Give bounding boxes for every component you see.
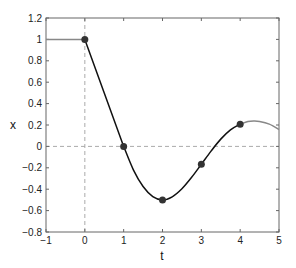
- x-tick-label: 5: [276, 235, 282, 246]
- data-point: [81, 36, 88, 43]
- x-tick-label: 0: [82, 235, 88, 246]
- y-tick-label: 1: [36, 34, 42, 45]
- x-tick-label: 3: [199, 235, 205, 246]
- x-tick-label: 1: [121, 235, 127, 246]
- chart: −1012345−0.8−0.6−0.4−0.200.20.40.60.811.…: [0, 0, 296, 268]
- x-tick-label: 2: [160, 235, 166, 246]
- x-tick-label: −1: [40, 235, 52, 246]
- y-tick-label: 0.4: [28, 98, 42, 109]
- x-axis-label: t: [160, 249, 164, 263]
- data-point: [159, 196, 166, 203]
- data-point: [237, 121, 244, 128]
- y-tick-label: 0.6: [28, 77, 42, 88]
- data-point: [198, 161, 205, 168]
- y-tick-label: −0.6: [22, 205, 42, 216]
- y-tick-label: 1.2: [28, 13, 42, 24]
- y-tick-label: 0.8: [28, 55, 42, 66]
- y-tick-label: −0.2: [22, 162, 42, 173]
- y-axis-label: x: [10, 118, 16, 132]
- y-tick-label: −0.4: [22, 184, 42, 195]
- x-tick-label: 4: [237, 235, 243, 246]
- y-tick-label: −0.8: [22, 227, 42, 238]
- y-tick-label: 0: [36, 141, 42, 152]
- y-tick-label: 0.2: [28, 120, 42, 131]
- data-point: [120, 143, 127, 150]
